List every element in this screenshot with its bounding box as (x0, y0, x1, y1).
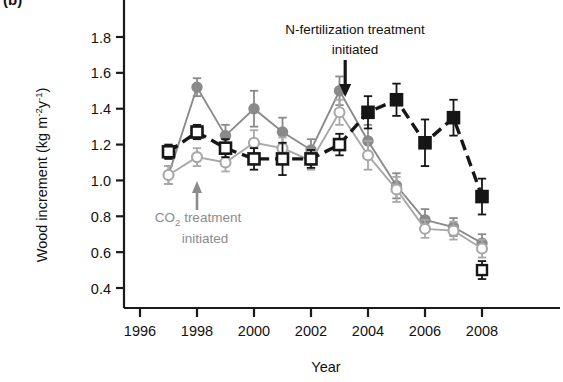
data-point-filled-square (363, 107, 374, 118)
data-point-open-square (192, 127, 203, 138)
figure-panel-b: (b) 0.40.60.81.01.21.41.61.8199619982000… (0, 0, 563, 382)
x-axis-tick-label: 2002 (295, 323, 327, 339)
series-line (169, 100, 483, 197)
wood-increment-chart: 0.40.60.81.01.21.41.61.81996199820002002… (0, 0, 563, 382)
series-N-fertilized-black-square (163, 84, 488, 215)
data-point-filled-square (391, 94, 402, 105)
x-axis-tick-label: 1998 (181, 323, 213, 339)
data-point-open-circle (477, 244, 487, 254)
co2-arrow (192, 181, 202, 210)
data-point-open-square (334, 139, 345, 150)
data-point-filled-square (448, 112, 459, 123)
data-point-open-square (306, 153, 317, 164)
data-point-open-circle (192, 152, 202, 162)
y-axis-tick-label: 1.4 (91, 101, 111, 117)
x-axis-tick-label: 2000 (238, 323, 270, 339)
series-elevated-CO2-filled-gray-circle (164, 76, 488, 252)
data-point-filled-circle (249, 104, 259, 114)
data-point-filled-circle (278, 127, 288, 137)
data-point-open-circle (335, 107, 345, 117)
data-point-open-square (220, 143, 231, 154)
x-axis-tick-label: 1996 (124, 323, 156, 339)
data-point-open-circle (392, 184, 402, 194)
data-point-open-square (277, 153, 288, 164)
y-axis-title: Wood increment (kg m-2y-1) (33, 88, 50, 263)
data-point-filled-circle (192, 82, 202, 92)
n-fertilization-annotation-line2: initiated (332, 42, 379, 57)
series-control-black-open-square-2008 (477, 261, 487, 279)
data-point-open-circle (164, 170, 174, 180)
annotation-layer (192, 60, 351, 210)
data-point-open-circle (363, 150, 373, 160)
data-point-filled-square (420, 137, 431, 148)
data-point-open-circle (449, 226, 459, 236)
data-point-open-circle (249, 138, 259, 148)
x-axis-title: Year (311, 359, 340, 375)
y-axis-tick-label: 1.2 (91, 137, 111, 153)
y-axis-tick-label: 1.8 (91, 30, 111, 46)
y-axis-tick-label: 0.4 (91, 281, 111, 297)
x-axis-tick-label: 2008 (466, 323, 498, 339)
data-point-open-square (163, 146, 174, 157)
y-axis-tick-label: 0.6 (91, 245, 111, 261)
y-axis-tick-label: 0.8 (91, 209, 111, 225)
data-point-open-circle (221, 158, 231, 168)
data-point-filled-square (477, 191, 488, 202)
data-point-open-square (477, 265, 487, 275)
co2-annotation-line2: initiated (182, 231, 229, 246)
data-series-layer (163, 76, 488, 279)
data-point-open-circle (420, 224, 430, 234)
x-axis-tick-label: 2004 (352, 323, 384, 339)
y-axis-tick-label: 1.0 (91, 173, 111, 189)
n-fertilization-annotation-line1: N-fertilization treatment (285, 22, 425, 37)
data-point-open-square (249, 153, 260, 164)
axes-layer: 0.40.60.81.01.21.41.61.81996199820002002… (91, 0, 560, 339)
x-axis-tick-label: 2006 (409, 323, 441, 339)
y-axis-tick-label: 1.6 (91, 65, 111, 81)
co2-annotation-line1: CO2 treatment (155, 210, 242, 228)
